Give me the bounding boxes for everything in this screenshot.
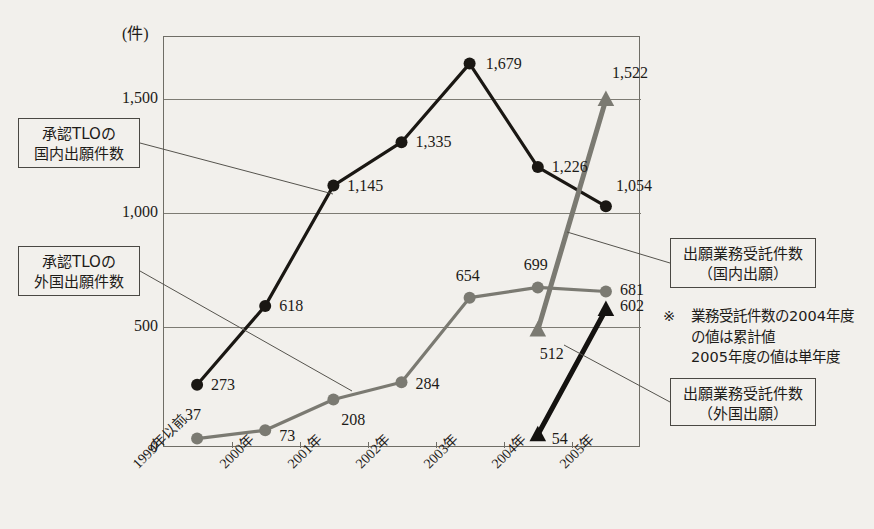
data-label: 512 xyxy=(540,345,564,363)
note-symbol: ※ xyxy=(663,306,675,327)
data-point-triangle xyxy=(598,301,615,317)
data-label: 1,679 xyxy=(486,55,522,73)
data-point-circle xyxy=(259,424,271,436)
y-tick-label-1500: 1,500 xyxy=(88,89,158,107)
callout-contract-domestic-line2: （国内出願） xyxy=(679,264,807,284)
data-label: 618 xyxy=(279,297,303,315)
data-point-circle xyxy=(464,292,476,304)
callout-contract-domestic: 出願業務受託件数 （国内出願） xyxy=(670,238,816,288)
data-label: 284 xyxy=(416,375,440,393)
data-label: 699 xyxy=(524,256,548,274)
data-label: 1,335 xyxy=(416,133,452,151)
note-line-3: 2005年度の値は単年度 xyxy=(691,347,854,368)
data-point-circle xyxy=(259,300,271,312)
callout-tlo-domestic: 承認TLOの 国内出願件数 xyxy=(18,118,140,168)
data-point-circle xyxy=(600,200,612,212)
y-axis-unit-label: (件) xyxy=(122,20,149,44)
note-line-1: 業務受託件数の2004年度 xyxy=(691,306,854,327)
callout-tlo-foreign-line2: 外国出願件数 xyxy=(27,272,131,292)
callout-tlo-foreign-line1: 承認TLOの xyxy=(27,252,131,272)
data-label: 1,226 xyxy=(552,158,588,176)
data-label: 1,145 xyxy=(347,177,383,195)
data-label: 654 xyxy=(456,267,480,285)
data-label: 73 xyxy=(279,427,295,445)
footnote: ※ 業務受託件数の2004年度 の値は累計値 2005年度の値は単年度 xyxy=(663,306,854,368)
data-point-circle xyxy=(191,379,203,391)
callout-contract-foreign: 出願業務受託件数 （外国出願） xyxy=(670,378,816,426)
y-tick-label-1000: 1,000 xyxy=(88,203,158,221)
series-line-2 xyxy=(538,100,606,331)
callout-contract-foreign-line1: 出願業務受託件数 xyxy=(679,384,807,404)
callout-contract-foreign-line2: （外国出願） xyxy=(679,404,807,424)
data-point-circle xyxy=(464,58,476,70)
data-label: 208 xyxy=(341,411,365,429)
data-label: 37 xyxy=(185,406,201,424)
data-point-circle xyxy=(600,286,612,298)
callout-tlo-foreign: 承認TLOの 外国出願件数 xyxy=(18,246,140,296)
callout-tlo-domestic-line1: 承認TLOの xyxy=(27,124,131,144)
y-tick-label-500: 500 xyxy=(88,317,158,335)
data-point-triangle xyxy=(598,91,615,107)
data-label: 1,522 xyxy=(612,64,648,82)
data-point-circle xyxy=(532,161,544,173)
data-point-circle xyxy=(396,376,408,388)
data-point-circle xyxy=(191,433,203,445)
data-point-circle xyxy=(327,394,339,406)
data-point-triangle xyxy=(530,321,547,337)
callout-contract-domestic-line1: 出願業務受託件数 xyxy=(679,244,807,264)
data-label: 54 xyxy=(552,430,568,448)
note-line-2: の値は累計値 xyxy=(691,327,854,348)
data-point-circle xyxy=(532,281,544,293)
data-label: 1,054 xyxy=(616,177,652,195)
chart-page: (件) 1,500 1,000 500 0 1999年以前 2000年 2001… xyxy=(0,0,874,529)
data-label: 273 xyxy=(211,376,235,394)
data-label: 602 xyxy=(620,297,644,315)
series-line-3 xyxy=(538,310,606,435)
data-point-circle xyxy=(327,180,339,192)
data-point-circle xyxy=(396,136,408,148)
callout-tlo-domestic-line2: 国内出願件数 xyxy=(27,144,131,164)
